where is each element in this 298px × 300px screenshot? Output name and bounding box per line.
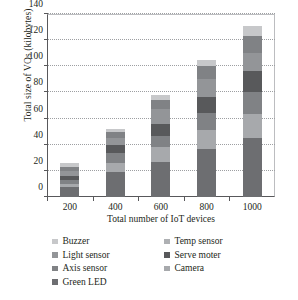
legend-label: Buzzer (63, 236, 90, 247)
bar-slot: 400 (93, 14, 139, 197)
legend-swatch-icon (52, 239, 58, 245)
legend-swatch-icon (164, 239, 170, 245)
bar-segment[interactable] (197, 97, 216, 113)
bar-segment[interactable] (243, 138, 262, 197)
legend-swatch-icon (164, 252, 170, 258)
legend-item[interactable]: Camera (164, 263, 266, 274)
stacked-bar[interactable] (60, 163, 79, 197)
legend-label: Axis sensor (63, 263, 108, 274)
legend-item[interactable]: Green LED (52, 277, 164, 288)
x-axis-tick-label: 800 (199, 202, 213, 212)
y-axis-tick-label: 140 (29, 0, 43, 9)
chart-legend: BuzzerTemp sensorLight sensorServe moter… (52, 236, 266, 288)
legend-label: Green LED (63, 277, 107, 288)
legend-label: Camera (175, 263, 205, 274)
bar-series-group: 2004006008001000 (47, 14, 275, 197)
bar-segment[interactable] (151, 124, 170, 136)
bar-segment[interactable] (151, 162, 170, 197)
bar-segment[interactable] (106, 172, 125, 197)
bar-slot: 800 (184, 14, 230, 197)
stacked-bar[interactable] (197, 60, 216, 197)
x-axis-tick-mark (229, 197, 230, 201)
bar-segment[interactable] (243, 36, 262, 53)
bar-segment[interactable] (197, 79, 216, 97)
y-axis-tick-label: 100 (29, 51, 43, 61)
y-axis-tick-label: 20 (34, 156, 44, 166)
bar-segment[interactable] (243, 92, 262, 114)
bar-segment[interactable] (243, 114, 262, 138)
bar-segment[interactable] (60, 187, 79, 197)
x-axis-tick-label: 1000 (243, 202, 262, 212)
bar-segment[interactable] (106, 138, 125, 145)
legend-swatch-icon (164, 266, 170, 272)
bar-slot: 600 (138, 14, 184, 197)
x-axis-tick-mark (93, 197, 94, 201)
y-axis-title: Total size of VOs (kilobytes) (23, 0, 33, 140)
y-axis-tick-label: 60 (34, 104, 44, 114)
plot-area: 020406080100120140 2004006008001000 (47, 14, 275, 197)
y-axis-tick-label: 0 (38, 182, 43, 192)
y-axis-tick-label: 80 (34, 77, 44, 87)
x-axis-tick-mark (47, 197, 48, 201)
legend-label: Serve moter (175, 250, 221, 261)
bar-slot: 200 (47, 14, 93, 197)
legend-swatch-icon (52, 266, 58, 272)
bar-segment[interactable] (151, 109, 170, 124)
chart-figure: Total size of VOs (kilobytes) 0204060801… (0, 0, 298, 300)
y-axis-tick-label: 40 (34, 130, 44, 140)
legend-swatch-icon (52, 252, 58, 258)
x-axis-title: Total number of IoT devices (47, 214, 275, 224)
bar-segment[interactable] (243, 53, 262, 71)
y-axis-tick-label: 120 (29, 25, 43, 35)
x-axis-tick-mark (184, 197, 185, 201)
legend-item[interactable]: Axis sensor (52, 263, 164, 274)
bar-segment[interactable] (151, 136, 170, 147)
legend-item[interactable]: Temp sensor (164, 236, 266, 247)
legend-swatch-icon (52, 279, 58, 285)
bar-segment[interactable] (243, 71, 262, 93)
bar-segment[interactable] (151, 100, 170, 109)
x-axis-tick-label: 600 (154, 202, 168, 212)
bar-segment[interactable] (197, 66, 216, 79)
bar-segment[interactable] (106, 145, 125, 153)
stacked-bar[interactable] (151, 95, 170, 197)
bar-segment[interactable] (197, 130, 216, 150)
x-axis-tick-mark (138, 197, 139, 201)
bar-segment[interactable] (106, 153, 125, 163)
bar-segment[interactable] (197, 113, 216, 129)
stacked-bar[interactable] (243, 26, 262, 197)
bar-segment[interactable] (106, 163, 125, 171)
bar-segment[interactable] (151, 147, 170, 163)
legend-item[interactable]: Serve moter (164, 250, 266, 261)
stacked-bar[interactable] (106, 129, 125, 197)
bar-segment[interactable] (197, 149, 216, 197)
legend-label: Light sensor (63, 250, 110, 261)
bar-segment[interactable] (243, 26, 262, 36)
legend-label: Temp sensor (175, 236, 223, 247)
legend-item[interactable]: Buzzer (52, 236, 164, 247)
x-axis-tick-label: 200 (63, 202, 77, 212)
bar-slot: 1000 (229, 14, 275, 197)
legend-item[interactable]: Light sensor (52, 250, 164, 261)
x-axis-tick-label: 400 (108, 202, 122, 212)
